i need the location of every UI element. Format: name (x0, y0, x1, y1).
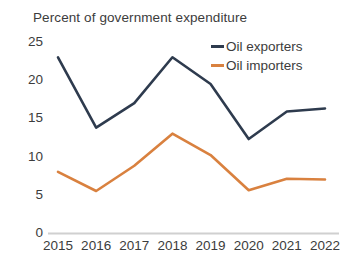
legend-item-oil-importers: Oil importers (211, 56, 335, 75)
x-tick-label: 2016 (81, 239, 111, 253)
legend-swatch-icon (211, 45, 224, 48)
line-series-oil-importers (58, 134, 325, 191)
x-tick-label: 2017 (119, 239, 149, 253)
x-tick-label: 2018 (157, 239, 187, 253)
legend-swatch-icon (211, 64, 224, 67)
x-tick-label: 2022 (310, 239, 340, 253)
x-axis: 2015 2016 2017 2018 2019 2020 2021 2022 (0, 239, 339, 261)
x-tick-label: 2021 (272, 239, 302, 253)
chart-legend: Oil exporters Oil importers (211, 37, 335, 75)
x-tick-label: 2015 (43, 239, 73, 253)
x-tick-label: 2019 (196, 239, 226, 253)
legend-label: Oil exporters (226, 40, 303, 54)
x-tick-label: 2020 (234, 239, 264, 253)
legend-label: Oil importers (226, 59, 303, 73)
legend-item-oil-exporters: Oil exporters (211, 37, 335, 56)
